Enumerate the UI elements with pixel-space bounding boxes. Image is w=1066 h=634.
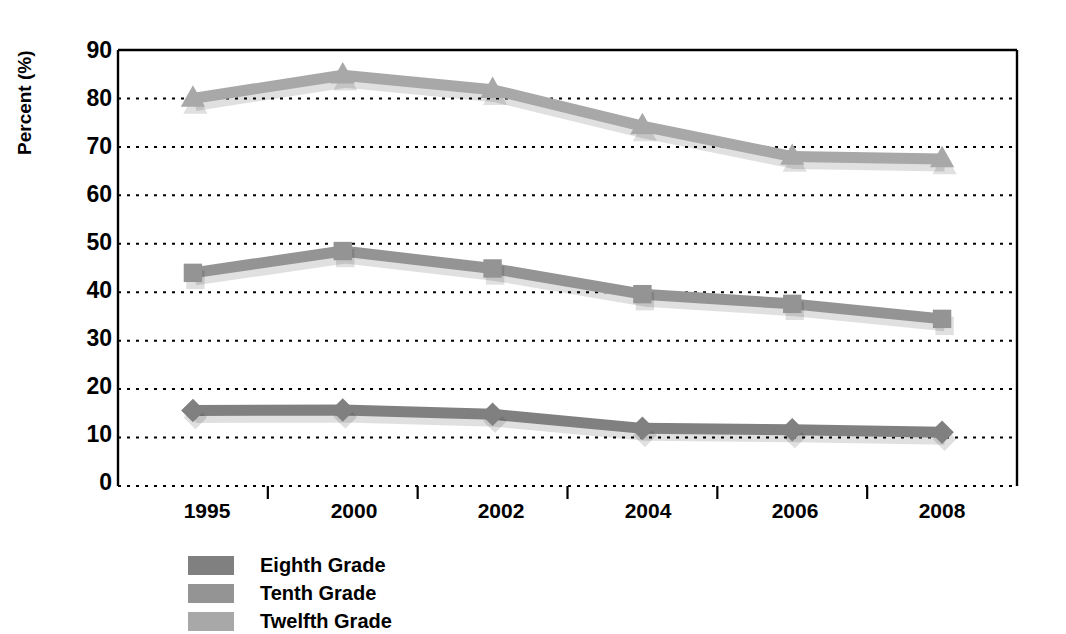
x-axis-ticks xyxy=(268,486,867,499)
legend-label-tenth-grade: Tenth Grade xyxy=(260,583,376,603)
data-point-tenth-grade-2008[interactable] xyxy=(933,310,951,328)
data-point-tenth-grade-1995[interactable] xyxy=(184,264,202,282)
legend: Eighth Grade Tenth Grade Twelfth Grade xyxy=(188,552,392,634)
series-layer xyxy=(181,62,957,451)
data-point-tenth-grade-2000[interactable] xyxy=(334,242,352,260)
data-point-tenth-grade-2004[interactable] xyxy=(633,285,651,303)
legend-swatch-eighth-grade xyxy=(188,556,234,575)
line-chart: Percent (%) 90 80 70 60 50 40 30 20 10 0… xyxy=(0,0,1066,634)
legend-label-twelfth-grade: Twelfth Grade xyxy=(260,611,392,631)
legend-item-eighth-grade[interactable]: Eighth Grade xyxy=(188,552,392,578)
data-point-tenth-grade-2006[interactable] xyxy=(783,295,801,313)
legend-swatch-tenth-grade xyxy=(188,584,234,603)
series-line-tenth-grade xyxy=(193,251,942,319)
legend-label-eighth-grade: Eighth Grade xyxy=(260,555,386,575)
legend-item-tenth-grade[interactable]: Tenth Grade xyxy=(188,580,392,606)
plot-area xyxy=(0,0,1066,634)
data-point-tenth-grade-2002[interactable] xyxy=(483,259,501,277)
legend-item-twelfth-grade[interactable]: Twelfth Grade xyxy=(188,608,392,634)
legend-swatch-twelfth-grade xyxy=(188,612,234,631)
